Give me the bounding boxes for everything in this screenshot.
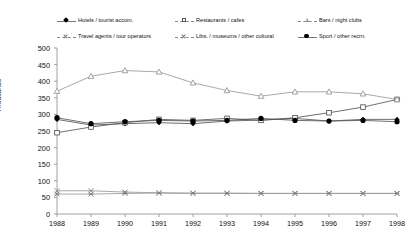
- x-axis-tick-label: 1992: [176, 219, 210, 228]
- y-axis-tick-label: 0: [26, 210, 50, 219]
- x-axis-tick-label: 1995: [278, 219, 312, 228]
- legend-key-star-marker-icon: [175, 33, 194, 42]
- legend-key-open-square-icon: [175, 17, 194, 26]
- x-axis-tick-label: 1991: [142, 219, 176, 228]
- x-axis-tick-label: 1997: [346, 219, 380, 228]
- legend-label: Sport / other recrn.: [319, 34, 366, 40]
- series-travel-agents-tour-operators: [55, 188, 400, 196]
- y-axis-tick-label: 150: [26, 160, 50, 169]
- x-axis-tick-label: 1993: [210, 219, 244, 228]
- chart-legend: Hotels / tourist accom. Restaurants / ca…: [57, 13, 402, 45]
- y-axis-tick-label: 500: [26, 44, 50, 53]
- y-axis-tick-label: 100: [26, 176, 50, 185]
- legend-item-sport-other-recrn[interactable]: Sport / other recrn.: [298, 33, 402, 42]
- line-chart: Hotels / tourist accom. Restaurants / ca…: [0, 0, 410, 247]
- x-axis-tick-label: 1996: [312, 219, 346, 228]
- x-axis-tick-label: 1994: [244, 219, 278, 228]
- y-axis-tick-label: 250: [26, 127, 50, 136]
- y-axis-tick-label: 400: [26, 77, 50, 86]
- legend-label: Restaurants / cafes: [196, 18, 244, 24]
- x-axis-tick-label: 1988: [40, 219, 74, 228]
- y-axis-tick-label: 200: [26, 143, 50, 152]
- y-axis-tick-label: 300: [26, 110, 50, 119]
- y-axis-title: Thousands: [0, 51, 2, 141]
- y-axis-tick-label: 350: [26, 93, 50, 102]
- legend-label: Bars / night clubs: [319, 18, 362, 24]
- y-axis-tick-label: 450: [26, 60, 50, 69]
- legend-item-libs-museums-other-cultural[interactable]: Libs. / museums / other cultural: [175, 33, 298, 42]
- legend-key-filled-diamond-icon: [57, 17, 76, 26]
- legend-key-open-triangle-icon: [298, 17, 317, 26]
- legend-label: Hotels / tourist accom.: [78, 18, 133, 24]
- legend-item-travel-agents-tour-operators[interactable]: Travel agents / tour operators: [57, 33, 175, 42]
- y-axis-tick-labels: 050100150200250300350400450500: [26, 48, 50, 214]
- series-restaurants-cafes: [55, 97, 400, 135]
- x-axis-tick-label: 1989: [74, 219, 108, 228]
- legend-item-restaurants-cafes[interactable]: Restaurants / cafes: [175, 17, 298, 26]
- series-bars-night-clubs: [54, 68, 400, 102]
- y-axis-tick-label: 50: [26, 193, 50, 202]
- legend-key-filled-circle-icon: [298, 33, 317, 42]
- x-axis-tick-label: 1990: [108, 219, 142, 228]
- legend-key-x-marker-icon: [57, 33, 76, 42]
- legend-label: Travel agents / tour operators: [78, 34, 151, 40]
- x-axis-tick-labels: 1988198919901991199219931994199519961997…: [57, 219, 397, 233]
- legend-item-bars-night-clubs[interactable]: Bars / night clubs: [298, 17, 402, 26]
- x-axis-tick-label: 1998: [380, 219, 410, 228]
- plot-svg: [57, 48, 397, 214]
- plot-area: [57, 48, 397, 214]
- legend-item-hotels-tourist-accom[interactable]: Hotels / tourist accom.: [57, 17, 175, 26]
- legend-label: Libs. / museums / other cultural: [196, 34, 274, 40]
